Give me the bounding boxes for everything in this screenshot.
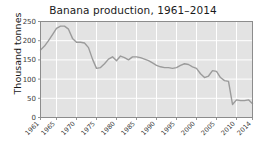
x-tick-label: 2010	[220, 120, 237, 137]
chart-figure: Banana production, 1961–2014 Thousand to…	[0, 0, 266, 141]
x-tick-label: 1980	[100, 120, 117, 137]
y-tick-label: 250	[23, 18, 36, 26]
plot-background	[41, 22, 253, 118]
y-tick-label: 100	[23, 76, 36, 84]
x-tick-label: 2000	[180, 120, 197, 137]
x-tick-label: 1970	[60, 120, 77, 137]
x-tick-label: 1961	[24, 120, 41, 137]
x-tick-label: 1975	[80, 120, 97, 137]
x-tick-label: 1995	[160, 120, 177, 137]
x-tick-label: 2014	[236, 120, 253, 137]
plot-area: 050100150200250 196119651970197519801985…	[0, 0, 266, 141]
x-tick-label: 2005	[200, 120, 217, 137]
x-tick-label: 1965	[40, 120, 57, 137]
x-tick-label: 1990	[140, 120, 157, 137]
y-tick-label: 200	[23, 37, 36, 45]
x-tick-label: 1985	[120, 120, 137, 137]
y-tick-label: 50	[27, 95, 36, 103]
y-tick-label: 150	[23, 56, 36, 64]
